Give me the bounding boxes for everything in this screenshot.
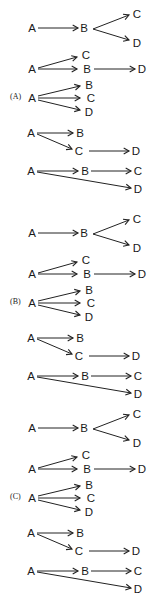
edge-a-to-b bbox=[38, 271, 77, 277]
edge-line bbox=[38, 262, 77, 273]
edge-line bbox=[37, 534, 72, 549]
section-c: (C)ABCDACBDABCDABCDABCD bbox=[10, 408, 146, 595]
node-d: D bbox=[138, 268, 146, 280]
node-d: D bbox=[132, 545, 140, 557]
node-b: B bbox=[76, 527, 84, 539]
node-c: C bbox=[134, 370, 142, 382]
edge-line bbox=[37, 339, 72, 354]
edge-line bbox=[93, 429, 129, 440]
node-b: B bbox=[80, 422, 88, 434]
edge-line bbox=[37, 134, 72, 149]
node-c: C bbox=[82, 49, 90, 61]
edge-line bbox=[38, 100, 80, 110]
edge-a-to-c bbox=[38, 56, 77, 68]
diagram-fan-out-three: ABCD bbox=[28, 79, 95, 118]
edge-b-to-c bbox=[91, 373, 131, 379]
diagram-fan-out-three: ABCD bbox=[28, 479, 95, 518]
edge-a-to-b bbox=[38, 289, 80, 301]
node-a: A bbox=[28, 297, 36, 309]
diagram-split-then-chain: ACBD bbox=[28, 254, 146, 280]
node-d: D bbox=[134, 388, 142, 400]
causal-diagram-figure: (A)ABCDACBDABCDABCDABCD(B)ABCDACBDABCDAB… bbox=[0, 0, 157, 610]
node-b: B bbox=[83, 63, 91, 75]
section-label: (B) bbox=[10, 297, 21, 306]
edge-a-to-c bbox=[38, 261, 77, 273]
node-b: B bbox=[76, 332, 84, 344]
node-b: B bbox=[81, 370, 89, 382]
diagram-chain-plus-direct: ABCD bbox=[27, 565, 142, 595]
edge-a-to-c bbox=[37, 534, 72, 550]
node-b: B bbox=[85, 479, 93, 491]
edge-a-to-c bbox=[38, 300, 80, 306]
edge-a-to-b bbox=[38, 466, 77, 472]
node-a: A bbox=[28, 492, 36, 504]
node-b: B bbox=[85, 284, 93, 296]
section-b: (B)ABCDACBDABCDABCDABCD bbox=[10, 213, 146, 400]
edge-b-to-c bbox=[91, 168, 131, 174]
node-c: C bbox=[133, 213, 141, 225]
edge-line bbox=[93, 29, 129, 40]
edge-b-to-d bbox=[93, 429, 129, 441]
section-label: (C) bbox=[10, 492, 21, 501]
node-a: A bbox=[28, 463, 36, 475]
edge-a-to-d bbox=[38, 305, 80, 317]
diagram-chain-then-split: ABCD bbox=[28, 408, 141, 449]
diagram-fan-out-three: ABCD bbox=[28, 284, 95, 323]
edge-line bbox=[93, 234, 129, 245]
edge-a-to-d bbox=[38, 500, 80, 512]
edge-a-to-d bbox=[38, 100, 80, 112]
node-d: D bbox=[133, 437, 141, 449]
diagram-chain-then-split: ABCD bbox=[28, 8, 141, 49]
node-c: C bbox=[134, 565, 142, 577]
diagram-split-with-branch-chain: ABCD bbox=[27, 127, 140, 157]
edge-a-to-c bbox=[38, 456, 77, 468]
node-c: C bbox=[134, 165, 142, 177]
diagram-split-then-chain: ACBD bbox=[28, 49, 146, 75]
edge-b-to-c bbox=[91, 568, 131, 574]
node-d: D bbox=[132, 350, 140, 362]
diagram-chain-plus-direct: ABCD bbox=[27, 370, 142, 400]
edge-line bbox=[38, 500, 80, 510]
edge-line bbox=[93, 15, 129, 29]
edge-a-to-b bbox=[38, 25, 78, 31]
diagram-split-then-chain: ACBD bbox=[28, 449, 146, 475]
node-b: B bbox=[83, 463, 91, 475]
section-a: (A)ABCDACBDABCDABCDABCD bbox=[10, 8, 146, 195]
node-a: A bbox=[28, 92, 36, 104]
node-c: C bbox=[87, 297, 95, 309]
node-c: C bbox=[82, 254, 90, 266]
node-d: D bbox=[85, 311, 93, 323]
node-c: C bbox=[82, 449, 90, 461]
edge-a-to-b bbox=[37, 335, 73, 341]
edge-c-to-d bbox=[89, 353, 129, 359]
diagram-split-with-branch-chain: ABCD bbox=[27, 332, 140, 362]
node-c: C bbox=[75, 350, 83, 362]
node-d: D bbox=[134, 583, 142, 595]
edge-a-to-c bbox=[38, 95, 80, 101]
node-b: B bbox=[80, 227, 88, 239]
diagram-chain-then-split: ABCD bbox=[28, 213, 141, 254]
edge-a-to-b bbox=[38, 425, 78, 431]
node-a: A bbox=[27, 165, 35, 177]
node-c: C bbox=[75, 545, 83, 557]
node-a: A bbox=[27, 332, 35, 344]
node-b: B bbox=[80, 22, 88, 34]
node-d: D bbox=[138, 463, 146, 475]
edge-a-to-b bbox=[38, 230, 78, 236]
node-a: A bbox=[28, 227, 36, 239]
edge-line bbox=[38, 457, 77, 468]
node-d: D bbox=[133, 242, 141, 254]
edge-line bbox=[93, 415, 129, 429]
node-a: A bbox=[27, 527, 35, 539]
diagram-split-with-branch-chain: ABCD bbox=[27, 527, 140, 557]
edge-a-to-b bbox=[38, 66, 77, 72]
edge-b-to-c bbox=[93, 14, 129, 29]
edge-b-to-d bbox=[93, 29, 129, 41]
node-a: A bbox=[28, 22, 36, 34]
edge-c-to-d bbox=[89, 148, 129, 154]
edge-b-to-d bbox=[94, 271, 135, 277]
node-b: B bbox=[76, 127, 84, 139]
node-a: A bbox=[27, 565, 35, 577]
edge-line bbox=[38, 305, 80, 315]
edge-a-to-b bbox=[38, 484, 80, 496]
